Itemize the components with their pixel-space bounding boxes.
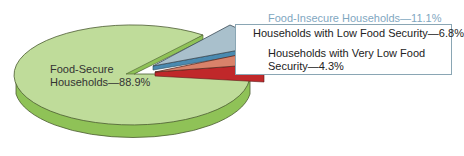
food-insecure-label: Food-Insecure Households—11.1% (268, 12, 441, 25)
very-low-security-label-line1: Households with Very Low Food (268, 47, 425, 60)
food-secure-label-line1: Food-Secure (50, 63, 114, 76)
very-low-security-label-line2: Security—4.3% (268, 60, 344, 73)
low-security-label: Households with Low Food Security—6.8% (253, 27, 464, 40)
food-secure-label-line2: Households—88.9% (50, 76, 150, 89)
